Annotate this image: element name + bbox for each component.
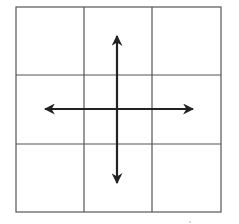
- arrow-group: [45, 36, 193, 183]
- speck-mark: [189, 221, 190, 222]
- grid-arrow-diagram: [0, 0, 239, 224]
